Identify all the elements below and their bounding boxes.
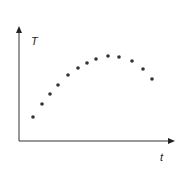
data-point	[40, 102, 44, 106]
y-axis-arrow-icon	[16, 26, 22, 33]
x-axis	[19, 138, 175, 144]
data-point	[141, 67, 145, 71]
data-point	[66, 73, 70, 77]
data-points	[31, 54, 154, 119]
data-point	[94, 57, 98, 61]
y-axis-label: T	[31, 35, 39, 47]
data-point	[85, 61, 89, 65]
x-axis-label: t	[160, 151, 164, 163]
chart: T t	[0, 0, 188, 169]
data-point	[76, 66, 80, 70]
data-point	[117, 55, 121, 59]
y-axis	[16, 26, 22, 141]
data-point	[31, 115, 35, 119]
data-point	[106, 54, 110, 58]
data-point	[56, 83, 60, 87]
data-point	[150, 77, 154, 81]
x-axis-arrow-icon	[168, 138, 175, 144]
data-point	[48, 92, 52, 96]
data-point	[130, 59, 134, 63]
